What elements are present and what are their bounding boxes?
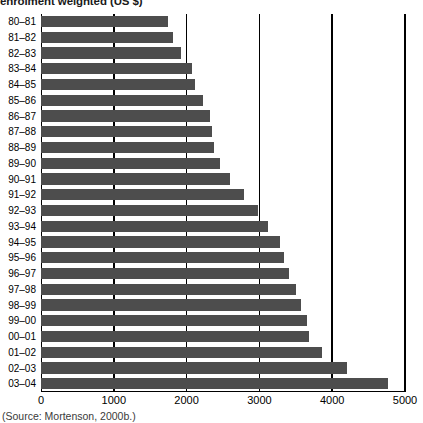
bar-96–97 xyxy=(41,268,289,279)
bar-00–01 xyxy=(41,331,309,342)
bar-82–83 xyxy=(41,47,181,58)
bar-row xyxy=(41,298,405,314)
bar-01–02 xyxy=(41,347,322,358)
bar-84–85 xyxy=(41,79,195,90)
bar-89–90 xyxy=(41,158,220,169)
y-tick-94–95: 94–95 xyxy=(8,235,36,251)
bar-90–91 xyxy=(41,173,230,184)
y-tick-81–82: 81–82 xyxy=(8,30,36,46)
y-tick-96–97: 96–97 xyxy=(8,266,36,282)
plot-area xyxy=(41,14,405,392)
bar-94–95 xyxy=(41,236,280,247)
bar-row xyxy=(41,345,405,361)
bar-88–89 xyxy=(41,142,214,153)
y-tick-89–90: 89–90 xyxy=(8,156,36,172)
x-axis-tick-labels: 010002000300040005000 xyxy=(0,394,423,410)
y-tick-88–89: 88–89 xyxy=(8,140,36,156)
y-tick-91–92: 91–92 xyxy=(8,187,36,203)
bar-row xyxy=(41,14,405,30)
bar-row xyxy=(41,376,405,392)
y-axis-tick-labels: 80–8181–8282–8383–8484–8585–8686–8787–88… xyxy=(0,14,39,392)
bar-row xyxy=(41,250,405,266)
bar-99–00 xyxy=(41,315,307,326)
bar-row xyxy=(41,203,405,219)
y-tick-03–04: 03–04 xyxy=(8,376,36,392)
y-tick-80–81: 80–81 xyxy=(8,14,36,30)
bar-row xyxy=(41,109,405,125)
bar-83–84 xyxy=(41,63,192,74)
bar-03–04 xyxy=(41,378,388,389)
y-tick-95–96: 95–96 xyxy=(8,250,36,266)
y-tick-97–98: 97–98 xyxy=(8,282,36,298)
y-tick-98–99: 98–99 xyxy=(8,298,36,314)
y-tick-90–91: 90–91 xyxy=(8,172,36,188)
bar-row xyxy=(41,93,405,109)
y-tick-87–88: 87–88 xyxy=(8,124,36,140)
bar-row xyxy=(41,266,405,282)
x-tick-4000: 4000 xyxy=(320,394,344,406)
chart-title: enrolment weighted (US $) xyxy=(0,0,143,7)
bar-series xyxy=(41,14,405,392)
y-tick-82–83: 82–83 xyxy=(8,46,36,62)
bar-95–96 xyxy=(41,252,284,263)
y-tick-00–01: 00–01 xyxy=(8,329,36,345)
bar-97–98 xyxy=(41,284,296,295)
bar-85–86 xyxy=(41,95,203,106)
bar-row xyxy=(41,77,405,93)
bar-98–99 xyxy=(41,299,301,310)
bar-row xyxy=(41,124,405,140)
bar-chart: enrolment weighted (US $) 80–8181–8282–8… xyxy=(0,0,423,423)
y-tick-93–94: 93–94 xyxy=(8,219,36,235)
x-tick-3000: 3000 xyxy=(247,394,271,406)
bar-86–87 xyxy=(41,110,210,121)
y-tick-99–00: 99–00 xyxy=(8,313,36,329)
y-tick-92–93: 92–93 xyxy=(8,203,36,219)
source-caption: (Source: Mortenson, 2000b.) xyxy=(2,410,136,422)
bar-row xyxy=(41,46,405,62)
bar-row xyxy=(41,313,405,329)
bar-81–82 xyxy=(41,32,173,43)
y-tick-02–03: 02–03 xyxy=(8,361,36,377)
y-tick-84–85: 84–85 xyxy=(8,77,36,93)
y-tick-85–86: 85–86 xyxy=(8,93,36,109)
x-tick-2000: 2000 xyxy=(174,394,198,406)
y-tick-83–84: 83–84 xyxy=(8,61,36,77)
bar-row xyxy=(41,172,405,188)
bar-row xyxy=(41,361,405,377)
x-tick-1000: 1000 xyxy=(102,394,126,406)
bar-80–81 xyxy=(41,16,168,27)
y-tick-86–87: 86–87 xyxy=(8,109,36,125)
bar-02–03 xyxy=(41,362,347,373)
x-tick-5000: 5000 xyxy=(393,394,417,406)
bar-row xyxy=(41,235,405,251)
bar-92–93 xyxy=(41,205,258,216)
bar-91–92 xyxy=(41,189,244,200)
bar-row xyxy=(41,30,405,46)
bar-row xyxy=(41,219,405,235)
y-tick-01–02: 01–02 xyxy=(8,345,36,361)
bar-row xyxy=(41,329,405,345)
bar-row xyxy=(41,187,405,203)
bar-87–88 xyxy=(41,126,212,137)
bar-row xyxy=(41,140,405,156)
bar-row xyxy=(41,282,405,298)
bar-row xyxy=(41,61,405,77)
x-tick-0: 0 xyxy=(38,394,44,406)
bar-93–94 xyxy=(41,221,268,232)
bar-row xyxy=(41,156,405,172)
